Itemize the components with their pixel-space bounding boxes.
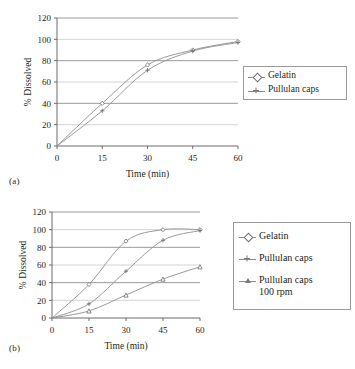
legend-item: Pullulan caps (248, 84, 342, 97)
svg-text:0: 0 (47, 141, 52, 151)
svg-text:100: 100 (33, 225, 47, 235)
svg-text:45: 45 (159, 325, 169, 335)
legend-item: Pullulan caps 100 rpm (239, 274, 345, 297)
svg-text:Time (min): Time (min) (104, 341, 147, 352)
svg-text:% Dissolved: % Dissolved (18, 241, 28, 290)
panel-label-b: (b) (9, 343, 20, 353)
legend-item-label: Gelatin (265, 70, 296, 81)
legend-item: Gelatin (239, 230, 345, 243)
legend-item-label: Gelatin (256, 230, 288, 242)
legend-item: Gelatin (248, 70, 342, 83)
cross-marker-icon (248, 86, 265, 97)
panel-label-a: (a) (9, 176, 20, 186)
svg-text:15: 15 (85, 325, 95, 335)
svg-text:120: 120 (33, 207, 47, 217)
plot-area-b: 020406080100120015304560Time (min)% Diss… (0, 200, 240, 360)
svg-text:60: 60 (37, 260, 47, 270)
svg-text:60: 60 (196, 325, 206, 335)
cross-marker-icon (239, 254, 256, 265)
svg-text:20: 20 (37, 296, 47, 306)
svg-text:0: 0 (50, 325, 55, 335)
svg-text:100: 100 (38, 35, 52, 45)
svg-text:0: 0 (42, 313, 47, 323)
svg-text:30: 30 (143, 153, 153, 163)
legend-b: Gelatin Pullulan caps Pullulan caps 100 … (233, 222, 351, 310)
plot-area-a: 020406080100120015304560Time (min)% Diss… (0, 0, 250, 180)
legend-item-label: Pullulan caps 100 rpm (256, 274, 313, 297)
diamond-marker-icon (239, 232, 256, 243)
legend-a: Gelatin Pullulan caps (243, 66, 347, 100)
svg-text:60: 60 (234, 153, 244, 163)
svg-text:60: 60 (42, 77, 52, 87)
svg-text:40: 40 (37, 278, 47, 288)
legend-item-label: Pullulan caps (265, 84, 319, 95)
diamond-marker-icon (248, 72, 265, 83)
triangle-marker-icon (239, 276, 256, 287)
chart-a-svg: 020406080100120015304560Time (min)% Diss… (0, 0, 250, 180)
svg-text:0: 0 (55, 153, 60, 163)
svg-text:80: 80 (37, 243, 47, 253)
svg-text:15: 15 (98, 153, 108, 163)
svg-text:120: 120 (38, 13, 52, 23)
dissolution-figure: 020406080100120015304560Time (min)% Diss… (0, 0, 355, 369)
svg-text:% Dissolved: % Dissolved (23, 58, 33, 107)
chart-b-svg: 020406080100120015304560Time (min)% Diss… (0, 200, 240, 360)
svg-text:40: 40 (42, 99, 52, 109)
svg-text:Time (min): Time (min) (126, 169, 169, 180)
legend-item-label: Pullulan caps (256, 252, 313, 264)
svg-text:45: 45 (188, 153, 198, 163)
svg-text:30: 30 (122, 325, 132, 335)
legend-item: Pullulan caps (239, 252, 345, 265)
svg-text:20: 20 (42, 120, 52, 130)
svg-text:80: 80 (42, 56, 52, 66)
